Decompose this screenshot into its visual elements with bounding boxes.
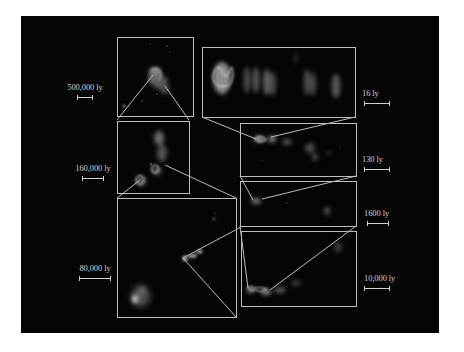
scale-label: 16 ly bbox=[362, 88, 398, 98]
scale-bar-500000-ly: 500,000 ly bbox=[60, 82, 110, 100]
scale-bar-10000-ly: 10,000 ly bbox=[364, 273, 406, 291]
scale-label: 1600 ly bbox=[364, 208, 400, 218]
scale-label: 160,000 ly bbox=[68, 163, 118, 173]
frame-panel-d bbox=[241, 124, 357, 177]
frame-panel-c bbox=[118, 122, 190, 194]
panel-g-galaxy-with-jet bbox=[132, 212, 216, 307]
scale-bar-line bbox=[364, 285, 390, 291]
panel-a-cluster bbox=[123, 43, 171, 107]
frame-panel-e bbox=[241, 182, 357, 227]
scale-label: 500,000 ly bbox=[60, 82, 110, 92]
panel-c-galaxy-pair bbox=[136, 131, 167, 186]
panel-d-jet-knots bbox=[254, 136, 341, 161]
scale-label: 130 ly bbox=[362, 154, 398, 164]
scale-bar-1600-ly: 1600 ly bbox=[364, 208, 400, 226]
scale-bar-160000-ly: 160,000 ly bbox=[68, 163, 118, 181]
scale-bar-line bbox=[367, 220, 389, 226]
scale-bar-80000-ly: 80,000 ly bbox=[70, 263, 120, 281]
scale-bar-line bbox=[82, 175, 104, 181]
panel-f-jet-structure bbox=[247, 242, 342, 295]
scale-bar-line bbox=[364, 166, 390, 172]
scale-bar-line bbox=[77, 94, 93, 100]
scale-bar-16-ly: 16 ly bbox=[362, 88, 398, 106]
panel-e-inner-jet bbox=[251, 198, 336, 215]
scale-label: 80,000 ly bbox=[70, 263, 120, 273]
scale-label: 10,000 ly bbox=[364, 273, 406, 283]
scale-bar-line bbox=[364, 100, 390, 106]
panel-b-knots bbox=[213, 52, 341, 98]
scale-bar-130-ly: 130 ly bbox=[362, 154, 398, 172]
scale-bar-line bbox=[79, 275, 111, 281]
